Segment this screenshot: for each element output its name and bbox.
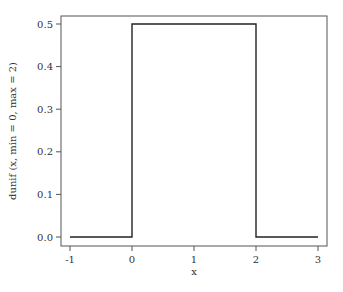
- x-tick-label: -1: [65, 254, 75, 265]
- y-tick-label: 0.4: [37, 61, 53, 72]
- density-line: [70, 24, 318, 237]
- x-tick-label: 2: [253, 254, 259, 265]
- density-plot: 0.00.10.20.30.40.5 -10123 x dunif (x, mi…: [0, 0, 343, 292]
- plot-frame: [61, 16, 327, 246]
- y-tick-label: 0.0: [37, 232, 53, 243]
- x-tick-label: 0: [129, 254, 135, 265]
- x-tick-label: 1: [191, 254, 197, 265]
- y-tick-label: 0.3: [37, 104, 53, 115]
- y-tick-label: 0.5: [37, 19, 53, 30]
- y-axis: 0.00.10.20.30.40.5: [37, 19, 61, 243]
- y-tick-label: 0.2: [37, 146, 53, 157]
- x-tick-label: 3: [315, 254, 321, 265]
- y-tick-label: 0.1: [37, 189, 53, 200]
- series-line: [70, 24, 318, 237]
- x-axis: -10123: [65, 246, 321, 265]
- y-axis-label: dunif (x, min = 0, max = 2): [7, 62, 18, 200]
- x-axis-label: x: [191, 266, 197, 277]
